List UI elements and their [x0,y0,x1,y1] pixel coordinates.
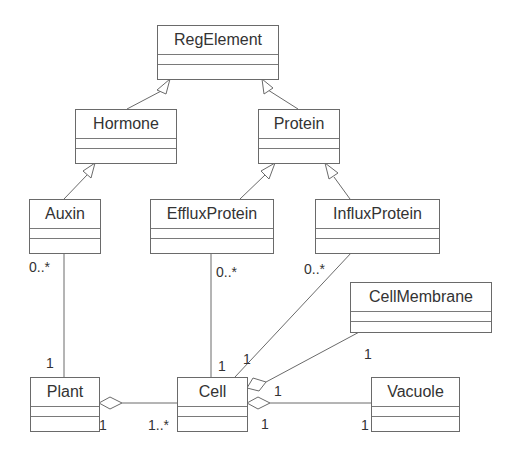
operations-compartment [31,417,99,431]
multiplicity-plant-top: 1 [46,356,54,370]
aggregation-diamond [99,397,122,409]
aggregation-diamond [247,378,266,391]
attributes-compartment [151,229,273,239]
attributes-compartment [351,312,491,322]
operations-compartment [316,239,439,253]
multiplicity-cell-vacuole: 1 [261,417,269,431]
class-name: Plant [31,378,99,407]
multiplicity-membrane: 1 [364,347,372,361]
class-name: Hormone [76,110,176,139]
attributes-compartment [31,407,99,417]
operations-compartment [158,65,278,79]
generalization-auxin-hormone [64,175,87,199]
association-influx-cell [235,252,352,377]
generalization-hormone-regelement [127,89,165,109]
class-name: Protein [259,110,339,139]
class-regelement[interactable]: RegElement [157,25,279,80]
attributes-compartment [316,229,439,239]
attributes-compartment [76,139,176,149]
aggregation-cell-membrane [266,330,363,382]
operations-compartment [76,149,176,163]
class-name: Vacuole [372,378,459,407]
class-name: InfluxProtein [316,200,439,229]
operations-compartment [372,417,459,431]
generalization-arrowhead [325,163,338,179]
class-name: CellMembrane [351,283,491,312]
attributes-compartment [259,139,339,149]
attributes-compartment [178,407,247,417]
class-protein[interactable]: Protein [258,109,340,164]
multiplicity-cell-plant: 1..* [148,418,169,432]
aggregation-diamond [247,397,270,409]
multiplicity-plant-agg: 1 [99,418,107,432]
operations-compartment [178,417,247,431]
operations-compartment [151,239,273,253]
attributes-compartment [158,55,278,65]
attributes-compartment [30,229,100,239]
multiplicity-cell-membrane-end: 1 [274,384,282,398]
multiplicity-cell-influx: 1 [243,352,251,366]
class-hormone[interactable]: Hormone [75,109,177,164]
uml-diagram: RegElement Hormone Protein Auxin EffluxP… [0,0,516,452]
operations-compartment [259,149,339,163]
multiplicity-cell-efflux: 1 [218,359,226,373]
generalization-efflux-protein [240,175,265,199]
operations-compartment [30,239,100,253]
class-cell[interactable]: Cell [177,377,248,432]
multiplicity-efflux: 0..* [216,265,237,279]
class-name: Cell [178,378,247,407]
class-vacuole[interactable]: Vacuole [371,377,460,432]
class-name: EffluxProtein [151,200,273,229]
class-influxprotein[interactable]: InfluxProtein [315,199,440,254]
operations-compartment [351,322,491,332]
generalization-influx-protein [334,177,350,199]
class-name: RegElement [158,26,278,55]
multiplicity-vacuole: 1 [361,418,369,432]
attributes-compartment [372,407,459,417]
multiplicity-influx: 0..* [304,262,325,276]
multiplicity-auxin: 0..* [29,260,50,274]
class-auxin[interactable]: Auxin [29,199,101,254]
class-name: Auxin [30,200,100,229]
class-plant[interactable]: Plant [30,377,100,432]
class-cellmembrane[interactable]: CellMembrane [350,282,492,333]
generalization-protein-regelement [268,90,298,109]
generalization-arrowhead [83,163,95,178]
class-effluxprotein[interactable]: EffluxProtein [150,199,274,254]
